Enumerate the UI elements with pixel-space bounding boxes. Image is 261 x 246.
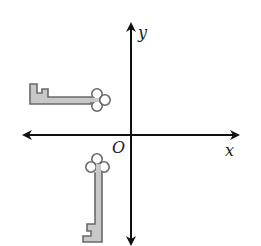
y-axis-label: y (138, 25, 147, 41)
x-axis-label: x (225, 143, 234, 159)
diagram-canvas (0, 0, 261, 246)
origin-label: O (112, 140, 125, 156)
key-vertical-icon (83, 154, 109, 242)
key-horizontal-icon (30, 84, 110, 111)
coordinate-plane-diagram: y x O (0, 0, 261, 246)
